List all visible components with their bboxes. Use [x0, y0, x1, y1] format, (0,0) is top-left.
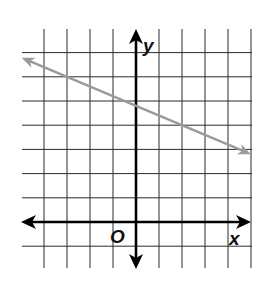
coordinate-plane: y x O	[0, 0, 266, 290]
x-axis-label: x	[228, 228, 241, 249]
origin-label: O	[110, 226, 125, 247]
y-axis-label: y	[142, 35, 155, 56]
